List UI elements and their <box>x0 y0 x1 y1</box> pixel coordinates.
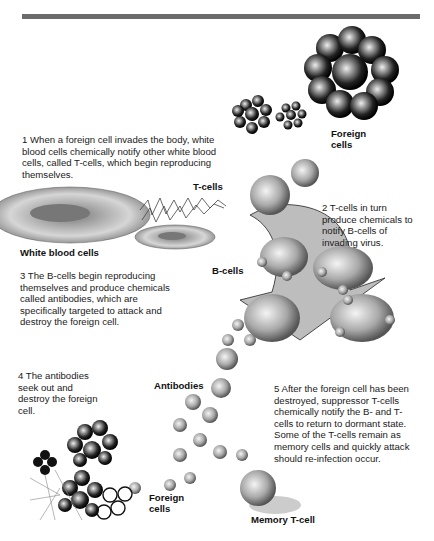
step-3-text: The B-cells begin reproducing themselves… <box>20 270 170 327</box>
foreign-cell-cluster-bottom <box>33 420 132 519</box>
white-blood-cell-large <box>0 187 150 243</box>
step-2: 2 T-cells in turn produce chemicals to n… <box>322 202 422 248</box>
step-1-text: When a foreign cell invades the body, wh… <box>22 134 216 180</box>
step-4-text: The antibodies seek out and destroy the … <box>18 370 97 416</box>
step-5-text: After the foreign cell has been destroye… <box>274 383 409 464</box>
label-memory-t-cell: Memory T-cell <box>251 514 315 525</box>
label-antibodies: Antibodies <box>154 380 204 391</box>
label-b-cells: B-cells <box>212 265 243 276</box>
step-5-number: 5 <box>274 383 279 394</box>
step-4-number: 4 <box>18 370 23 381</box>
step-3-number: 3 <box>20 270 25 281</box>
step-4: 4 The antibodies seek out and destroy th… <box>18 370 104 416</box>
foreign-cell-cluster-large <box>304 26 399 120</box>
white-blood-cell-small <box>135 225 215 249</box>
step-5: 5 After the foreign cell has been destro… <box>274 383 419 464</box>
label-foreign-cells-bottom: Foreign cells <box>149 492 189 514</box>
step-1-number: 1 <box>22 134 27 145</box>
step-3: 3 The B-cells begin reproducing themselv… <box>20 270 180 328</box>
step-2-number: 2 <box>322 202 327 213</box>
label-white-blood-cells: White blood cells <box>20 247 99 258</box>
label-foreign-cells-top: Foreign cells <box>331 128 375 150</box>
memory-t-cell <box>240 470 301 514</box>
step-1: 1 When a foreign cell invades the body, … <box>22 134 232 180</box>
antibodies <box>129 319 256 494</box>
chemical-signal-zigzag <box>140 198 226 222</box>
step-2-text: T-cells in turn produce chemicals to not… <box>322 202 413 248</box>
label-t-cells: T-cells <box>193 181 223 192</box>
foreign-cell-cluster-small <box>232 95 307 134</box>
t-cells <box>250 159 319 215</box>
